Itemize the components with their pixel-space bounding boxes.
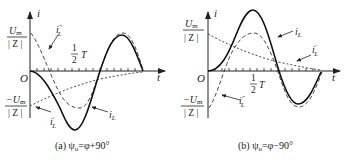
svg-text:| Z |: | Z | bbox=[8, 108, 22, 118]
label-iL-prime: i′L bbox=[297, 43, 318, 61]
svg-text:| Z |: | Z | bbox=[184, 108, 198, 118]
svg-text:−Um: −Um bbox=[183, 94, 203, 106]
panel-b: i t O Um | Z | −Um | Z | 1 2 T iL i′L bbox=[181, 7, 340, 153]
y-axis-label: i bbox=[37, 7, 40, 19]
half-period-label: 1 2 T bbox=[250, 73, 266, 95]
svg-text:i′L: i′L bbox=[50, 115, 56, 130]
svg-text:T: T bbox=[259, 79, 266, 90]
svg-text:i″L: i″L bbox=[56, 23, 62, 38]
panel-a: i t O Um | Z | −Um | Z | 1 2 T i″L bbox=[5, 7, 165, 153]
svg-text:iL: iL bbox=[109, 109, 116, 122]
svg-text:Um: Um bbox=[9, 25, 22, 37]
svg-text:1: 1 bbox=[251, 73, 256, 83]
curve-iL-prime bbox=[30, 72, 143, 106]
label-iL: iL bbox=[278, 26, 302, 39]
curve-iL-prime bbox=[208, 34, 322, 70]
label-iL-prime: i′L bbox=[36, 107, 56, 130]
half-period-label: 1 2 T bbox=[71, 43, 88, 65]
origin-label: O bbox=[20, 72, 28, 84]
svg-text:iL: iL bbox=[295, 26, 302, 39]
y-axis-label: i bbox=[214, 7, 217, 19]
svg-text:2: 2 bbox=[72, 55, 77, 65]
svg-text:i′L: i′L bbox=[312, 43, 318, 58]
pos-amplitude-label: Um | Z | bbox=[183, 18, 204, 43]
neg-amplitude-label: −Um | Z | bbox=[5, 94, 27, 118]
caption-b: (b) ψu=φ−90° bbox=[238, 140, 293, 153]
neg-amplitude-label: −Um | Z | bbox=[181, 94, 204, 118]
transient-current-figure: i t O Um | Z | −Um | Z | 1 2 T i″L bbox=[0, 0, 350, 164]
caption-a: (a) ψu=φ+90° bbox=[55, 140, 109, 153]
x-axis-label: t bbox=[332, 71, 336, 83]
svg-text:−Um: −Um bbox=[6, 94, 26, 106]
pos-amplitude-label: Um | Z | bbox=[7, 25, 27, 49]
x-axis-label: t bbox=[157, 71, 161, 83]
label-iL-double-prime: i″L bbox=[222, 94, 245, 109]
svg-text:Um: Um bbox=[185, 18, 198, 30]
svg-text:1: 1 bbox=[72, 43, 77, 53]
svg-text:| Z |: | Z | bbox=[8, 39, 22, 49]
svg-text:2: 2 bbox=[251, 85, 256, 95]
svg-text:| Z |: | Z | bbox=[184, 33, 198, 43]
svg-text:i″L: i″L bbox=[239, 94, 245, 109]
label-iL: iL bbox=[92, 107, 116, 122]
svg-text:T: T bbox=[81, 49, 88, 60]
origin-label: O bbox=[197, 72, 205, 84]
label-iL-double-prime: i″L bbox=[49, 23, 62, 49]
